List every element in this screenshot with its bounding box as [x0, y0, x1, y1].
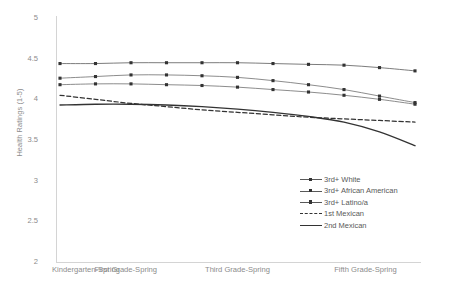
series-3rd-white	[58, 61, 416, 72]
data-point-marker	[413, 69, 416, 72]
legend-item-3rd-african-american[interactable]: 3rd+ African American	[300, 185, 398, 196]
legend-item-3rd-white[interactable]: 3rd+ White	[300, 174, 398, 185]
data-point-marker	[271, 62, 274, 65]
x-axis-tick-labels: Kindergarten-SpringFirst Grade-SpringThi…	[0, 266, 452, 282]
legend-swatch-icon	[300, 198, 322, 207]
legend-swatch-icon	[300, 175, 322, 184]
data-point-marker	[342, 88, 345, 91]
data-point-marker	[307, 63, 310, 66]
x-axis-line	[56, 262, 421, 263]
health-ratings-line-chart: Health Ratings (1-5) 54.543.532.52 Kinde…	[0, 0, 452, 289]
data-point-marker	[271, 88, 274, 91]
y-tick-label: 2	[12, 258, 38, 266]
y-tick-label: 2.5	[12, 217, 38, 225]
data-point-marker	[378, 98, 381, 101]
data-point-marker	[94, 75, 97, 78]
data-point-marker	[94, 82, 97, 85]
data-point-marker	[165, 83, 168, 86]
y-tick-label: 3	[12, 177, 38, 185]
data-point-marker	[129, 82, 132, 85]
data-point-marker	[236, 61, 239, 64]
data-point-marker	[378, 66, 381, 69]
series-3rd-latino-a	[58, 82, 416, 105]
data-point-marker	[378, 95, 381, 98]
legend-item-1st-mexican[interactable]: 1st Mexican	[300, 208, 398, 219]
y-tick-label: 4	[12, 95, 38, 103]
data-point-marker	[165, 61, 168, 64]
legend-item-label: 2nd Mexican	[324, 222, 367, 230]
data-point-marker	[271, 79, 274, 82]
series-3rd-african-american	[58, 73, 416, 104]
legend-item-label: 3rd+ African American	[324, 187, 398, 195]
data-point-marker	[129, 73, 132, 76]
legend-item-2nd-mexican[interactable]: 2nd Mexican	[300, 220, 398, 231]
data-point-marker	[307, 83, 310, 86]
data-point-marker	[342, 64, 345, 67]
data-point-marker	[58, 83, 61, 86]
y-axis-tick-labels: 54.543.532.52	[8, 0, 38, 289]
legend-item-label: 3rd+ Latino/a	[324, 199, 368, 207]
data-point-marker	[236, 76, 239, 79]
x-tick-label: Third Grade-Spring	[205, 266, 270, 274]
series-line	[60, 75, 415, 103]
data-point-marker	[200, 61, 203, 64]
series-2nd-mexican	[60, 104, 415, 146]
y-tick-label: 5	[12, 14, 38, 22]
data-point-marker	[58, 77, 61, 80]
data-point-marker	[94, 62, 97, 65]
legend-swatch-icon	[300, 221, 322, 230]
legend-item-label: 1st Mexican	[324, 210, 364, 218]
data-point-marker	[413, 103, 416, 106]
data-point-marker	[58, 62, 61, 65]
data-point-marker	[200, 74, 203, 77]
data-point-marker	[307, 90, 310, 93]
data-point-marker	[342, 94, 345, 97]
legend-item-label: 3rd+ White	[324, 176, 360, 184]
x-tick-label: Fifth Grade-Spring	[334, 266, 396, 274]
data-point-marker	[236, 86, 239, 89]
legend-swatch-icon	[300, 187, 322, 196]
data-point-marker	[165, 73, 168, 76]
y-tick-label: 3.5	[12, 136, 38, 144]
legend-item-3rd-latino-a[interactable]: 3rd+ Latino/a	[300, 197, 398, 208]
series-line	[60, 104, 415, 146]
data-point-marker	[129, 61, 132, 64]
x-tick-label: First Grade-Spring	[95, 266, 157, 274]
data-point-marker	[200, 84, 203, 87]
chart-legend: 3rd+ White3rd+ African American3rd+ Lati…	[300, 174, 398, 231]
y-tick-label: 4.5	[12, 55, 38, 63]
legend-swatch-icon	[300, 209, 322, 218]
